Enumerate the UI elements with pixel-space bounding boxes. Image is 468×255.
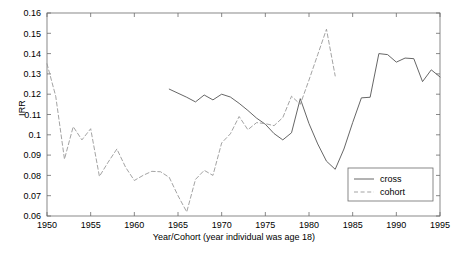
x-tick-label: 1975 [255, 220, 275, 230]
y-tick-label: 0.08 [23, 171, 41, 181]
y-tick-label: 0.15 [23, 29, 41, 39]
legend-label-cohort: cohort [380, 187, 406, 197]
y-tick-label: 0.07 [23, 191, 41, 201]
y-tick-label: 0.1 [28, 130, 41, 140]
series-line-cohort [47, 29, 335, 212]
legend-label-cross: cross [380, 174, 402, 184]
x-tick-label: 1990 [386, 220, 406, 230]
plot-area: 1950195519601965197019751980198519901995… [0, 0, 468, 255]
y-tick-label: 0.13 [23, 69, 41, 79]
x-tick-label: 1970 [212, 220, 232, 230]
x-tick-label: 1965 [168, 220, 188, 230]
y-tick-label: 0.12 [23, 89, 41, 99]
x-tick-label: 1950 [37, 220, 57, 230]
x-tick-label: 1980 [299, 220, 319, 230]
x-tick-label: 1995 [430, 220, 450, 230]
chart-legend: crosscohort [348, 168, 433, 201]
y-tick-label: 0.06 [23, 211, 41, 221]
y-tick-label: 0.14 [23, 49, 41, 59]
x-tick-label: 1985 [343, 220, 363, 230]
x-tick-label: 1960 [124, 220, 144, 230]
series-line-cross [169, 54, 440, 170]
x-tick-label: 1955 [81, 220, 101, 230]
y-tick-label: 0.16 [23, 8, 41, 18]
y-tick-label: 0.09 [23, 150, 41, 160]
y-tick-label: 0.11 [24, 110, 41, 120]
chart-figure: IRR Year/Cohort (year individual was age… [0, 0, 468, 255]
